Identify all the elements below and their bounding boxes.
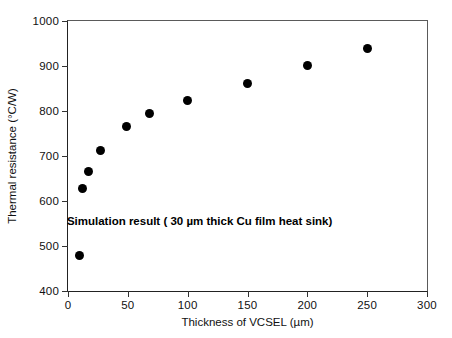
y-axis-tick: [62, 66, 68, 67]
x-axis-tick-label: 200: [297, 299, 317, 311]
x-axis-title: Thickness of VCSEL (µm): [67, 316, 428, 328]
y-axis-tick-label: 1000: [33, 15, 59, 27]
data-point: [75, 251, 84, 260]
x-axis-tick-label: 100: [178, 299, 198, 311]
y-axis-tick: [62, 156, 68, 157]
chart-figure: Thermal resistance (°C/W) 40050060070080…: [0, 0, 452, 338]
y-axis-tick: [62, 201, 68, 202]
y-axis-title: Thermal resistance (°C/W): [2, 20, 22, 292]
chart-annotation: Simulation result ( 30 µm thick Cu film …: [67, 215, 332, 227]
x-axis-tick-label: 250: [357, 299, 377, 311]
x-axis-tick: [307, 291, 308, 297]
data-point: [145, 109, 154, 118]
y-axis-title-text: Thermal resistance (°C/W): [6, 88, 18, 224]
plot-area: 4005006007008009001000 05010015020025030…: [67, 20, 428, 292]
x-axis-tick: [188, 291, 189, 297]
data-point: [84, 167, 93, 176]
x-axis-tick-label: 300: [417, 299, 437, 311]
data-point: [122, 122, 131, 131]
y-axis-tick: [62, 21, 68, 22]
x-axis-tick: [68, 291, 69, 297]
x-axis-tick: [427, 291, 428, 297]
y-axis-tick: [62, 111, 68, 112]
data-point: [78, 184, 87, 193]
y-axis-tick-label: 600: [39, 195, 59, 207]
y-axis-tick-label: 900: [39, 60, 59, 72]
x-axis-title-text: Thickness of VCSEL (µm): [181, 316, 313, 328]
data-point: [96, 146, 105, 155]
data-point: [363, 44, 372, 53]
data-point: [183, 96, 192, 105]
x-axis-tick-label: 150: [238, 299, 258, 311]
y-axis-tick-label: 700: [39, 150, 59, 162]
y-axis-tick: [62, 246, 68, 247]
y-axis-tick-label: 400: [39, 285, 59, 297]
x-axis-tick: [248, 291, 249, 297]
y-axis-tick-label: 500: [39, 240, 59, 252]
x-axis-tick: [367, 291, 368, 297]
y-axis-tick-label: 800: [39, 105, 59, 117]
x-axis-tick: [128, 291, 129, 297]
x-axis-tick-label: 50: [121, 299, 134, 311]
data-point: [303, 61, 312, 70]
x-axis-tick-label: 0: [65, 299, 72, 311]
data-point: [243, 79, 252, 88]
